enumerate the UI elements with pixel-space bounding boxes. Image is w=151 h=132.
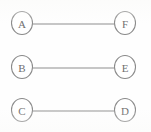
node-b[interactable]: B (12, 56, 33, 79)
graph-canvas: A F B E C D (0, 0, 151, 132)
node-c-label: C (18, 105, 25, 117)
node-e-label: E (122, 62, 129, 74)
node-d[interactable]: D (115, 99, 136, 122)
node-a[interactable]: A (12, 12, 33, 35)
node-f[interactable]: F (115, 12, 136, 35)
graph-diagram: A F B E C D (0, 0, 151, 132)
node-d-label: D (121, 105, 129, 117)
node-a-label: A (18, 18, 26, 30)
node-f-label: F (122, 18, 128, 30)
node-c[interactable]: C (12, 99, 33, 122)
node-e[interactable]: E (115, 56, 136, 79)
node-b-label: B (18, 62, 25, 74)
